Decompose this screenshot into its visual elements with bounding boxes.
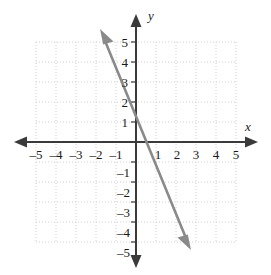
- x-tick-label: 2: [174, 147, 181, 162]
- y-axis-bottom-arrowhead-icon: [131, 255, 142, 268]
- x-tick-label: 5: [233, 147, 240, 162]
- x-axis-left-arrowhead-icon: [14, 137, 27, 148]
- x-axis-right-arrowhead-icon: [245, 137, 258, 148]
- y-tick-label: –5: [116, 245, 130, 260]
- y-tick-label: 2: [122, 95, 129, 110]
- y-tick-label: –4: [116, 225, 131, 240]
- x-tick-label: –4: [49, 147, 64, 162]
- y-tick-label: 4: [122, 55, 129, 70]
- y-tick-label: 1: [122, 115, 129, 130]
- x-tick-label: 1: [155, 147, 162, 162]
- x-tick-label: –5: [29, 147, 43, 162]
- x-tick-label: 4: [213, 147, 220, 162]
- y-tick-label: –2: [116, 185, 130, 200]
- x-axis-tick-labels: –5 –4 –3 –2 –1 1 2 3 4 5: [29, 147, 240, 162]
- y-tick-label: 5: [122, 35, 129, 50]
- coordinate-plane-figure: –5 –4 –3 –2 –1 1 2 3 4 5 5 4 3 2 1 –1 –2…: [0, 0, 271, 275]
- x-tick-label: –3: [69, 147, 83, 162]
- line-segment: [103, 36, 188, 243]
- line-lower-arrowhead-icon: [178, 235, 192, 251]
- y-axis-name-label: y: [146, 8, 154, 23]
- y-tick-label: –3: [116, 205, 130, 220]
- y-tick-label: 3: [122, 75, 129, 90]
- y-axis-top-arrowhead-icon: [131, 14, 142, 27]
- x-tick-label: –2: [89, 147, 103, 162]
- x-tick-label: –1: [109, 147, 123, 162]
- y-tick-label: –1: [116, 165, 130, 180]
- x-axis-name-label: x: [244, 119, 251, 134]
- graph-canvas: –5 –4 –3 –2 –1 1 2 3 4 5 5 4 3 2 1 –1 –2…: [0, 0, 271, 275]
- x-tick-label: 3: [193, 147, 200, 162]
